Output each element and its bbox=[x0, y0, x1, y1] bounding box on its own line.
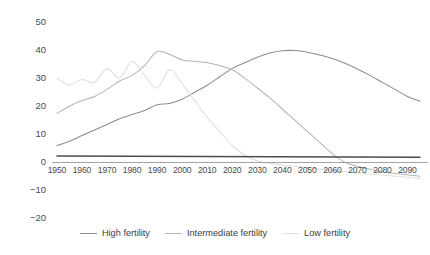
fertility-line-chart: 50403020100−10−20 1950196019701980199020… bbox=[0, 0, 430, 255]
legend-line-swatch-icon bbox=[282, 233, 299, 234]
series-line-low-fertility bbox=[57, 61, 420, 178]
legend-item-label: High fertility bbox=[102, 228, 150, 239]
legend-line-swatch-icon bbox=[80, 233, 97, 234]
legend-item[interactable]: High fertility bbox=[80, 228, 150, 239]
legend-item-label: Intermediate fertility bbox=[187, 228, 267, 239]
legend-line-swatch-icon bbox=[165, 233, 182, 234]
legend-item[interactable]: Low fertility bbox=[282, 228, 350, 239]
series-line-high-fertility bbox=[57, 50, 420, 145]
legend-item-label: Low fertility bbox=[304, 228, 350, 239]
chart-plot-area bbox=[0, 0, 430, 255]
chart-legend: High fertilityIntermediate fertilityLow … bbox=[0, 228, 430, 239]
legend-item[interactable]: Intermediate fertility bbox=[165, 228, 267, 239]
series-line-reference-line bbox=[57, 156, 420, 157]
series-layer bbox=[57, 50, 420, 178]
